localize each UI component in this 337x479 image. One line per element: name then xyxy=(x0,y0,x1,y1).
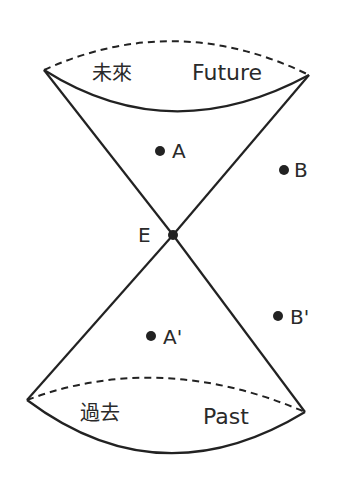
future-cone-left-side xyxy=(44,70,173,235)
past-cone-right-side xyxy=(173,235,305,412)
event-label: E xyxy=(138,223,151,247)
point-b-prime xyxy=(273,311,283,321)
future-cone-back-edge xyxy=(44,41,309,75)
point-a xyxy=(155,146,165,156)
future-cone-right-side xyxy=(173,75,309,235)
past-cone-front-edge xyxy=(27,400,305,453)
past-cone-back-edge xyxy=(27,378,305,412)
past-cone-left-side xyxy=(27,235,173,400)
future-cone-front-edge xyxy=(44,70,309,111)
point-a-prime xyxy=(146,331,156,341)
point-a-prime-label: A' xyxy=(163,325,182,349)
past-zh-label: 過去 xyxy=(80,401,120,425)
past-en-label: Past xyxy=(203,404,249,429)
future-en-label: Future xyxy=(192,60,262,85)
point-b-prime-label: B' xyxy=(290,305,309,329)
point-a-label: A xyxy=(172,139,186,163)
point-b xyxy=(279,165,289,175)
point-b-label: B xyxy=(294,158,308,182)
light-cone-diagram: 未來 Future 過去 Past E A B A' B' xyxy=(0,0,337,479)
future-zh-label: 未來 xyxy=(92,61,132,85)
event-point xyxy=(168,230,178,240)
